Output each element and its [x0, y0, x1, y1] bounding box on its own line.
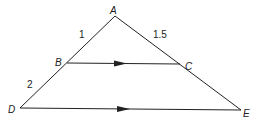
triangle-diagram: A B C D E 1 1.5 2 [0, 0, 256, 129]
parallel-arrow-bc-icon [114, 61, 127, 67]
point-label-a: A [109, 5, 117, 16]
segment-ae [115, 16, 241, 110]
parallel-arrow-de-icon [117, 106, 130, 112]
length-label-ab: 1 [79, 29, 85, 40]
segment-de [20, 108, 241, 110]
length-label-bd: 2 [27, 79, 33, 90]
point-label-e: E [243, 108, 250, 119]
point-label-d: D [8, 104, 15, 115]
length-label-ac: 1.5 [153, 29, 167, 40]
point-label-c: C [185, 61, 193, 72]
segment-ad [20, 16, 115, 108]
point-label-b: B [55, 57, 62, 68]
